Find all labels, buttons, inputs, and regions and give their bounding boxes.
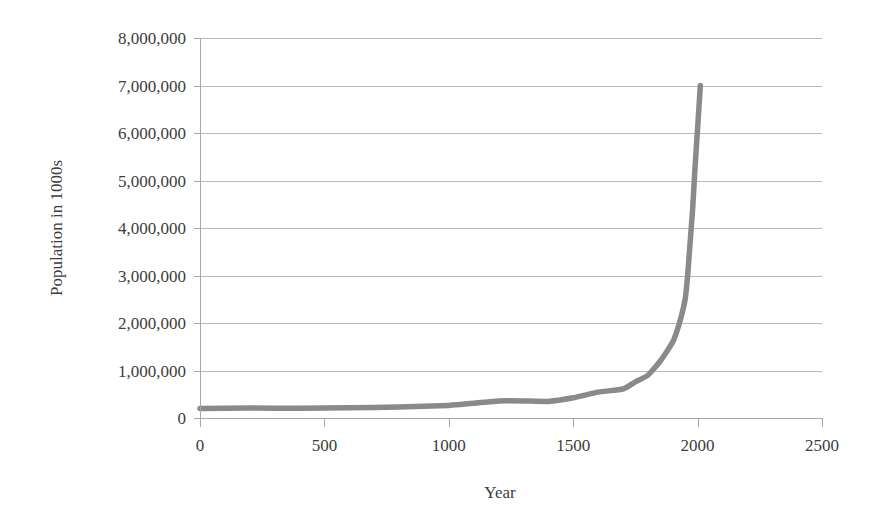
chart-canvas: 01,000,0002,000,0003,000,0004,000,0005,0…	[0, 0, 883, 522]
x-tick-label: 500	[312, 436, 338, 455]
x-tick-label: 2000	[681, 436, 715, 455]
y-tick-label: 0	[178, 409, 187, 428]
x-tick-label: 0	[196, 436, 205, 455]
y-tick-labels: 01,000,0002,000,0003,000,0004,000,0005,0…	[118, 29, 186, 428]
y-tick-label: 7,000,000	[118, 77, 186, 96]
y-tick-label: 5,000,000	[118, 172, 186, 191]
y-tick-label: 3,000,000	[118, 267, 186, 286]
x-axis-title: Year	[484, 483, 516, 502]
y-tick-label: 6,000,000	[118, 124, 186, 143]
y-axis-title: Population in 1000s	[47, 160, 66, 296]
x-tick-label: 1500	[556, 436, 590, 455]
y-tick-label: 1,000,000	[118, 362, 186, 381]
x-tick-label: 1000	[432, 436, 466, 455]
y-tick-label: 8,000,000	[118, 29, 186, 48]
population-line-chart: 01,000,0002,000,0003,000,0004,000,0005,0…	[0, 0, 883, 522]
y-tick-label: 2,000,000	[118, 314, 186, 333]
y-tick-label: 4,000,000	[118, 219, 186, 238]
x-tick-label: 2500	[805, 436, 839, 455]
